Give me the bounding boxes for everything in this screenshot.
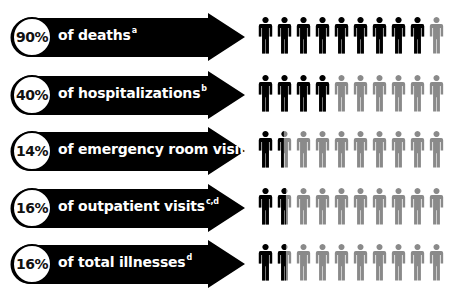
row-total-illnesses: 16% of total illnessesd [0,240,456,288]
person-icon-empty [313,187,332,227]
person-icon-empty [408,130,427,170]
person-icon-empty [389,130,408,170]
percent-badge: 14% [12,131,52,171]
person-icon-partial [275,130,294,170]
person-icon-empty [427,74,446,114]
person-icon-filled [313,74,332,114]
percent-badge: 16% [12,188,52,228]
person-icon-empty [351,243,370,283]
people-icons [256,130,446,170]
person-icon-filled [370,16,389,56]
row-label: of total illnessesd [58,254,192,270]
person-icon-empty [313,130,332,170]
person-icon-empty [408,74,427,114]
person-icon-empty [351,74,370,114]
person-icon-empty [370,130,389,170]
row-hospitalizations: 40% of hospitalizationsb [0,71,456,127]
people-icons [256,243,446,283]
person-icon-empty [370,187,389,227]
person-icon-filled [256,130,275,170]
person-icon-filled [351,16,370,56]
row-label: of deathsa [58,27,137,43]
label-text: of total illnesses [58,254,185,270]
row-label: of emergency room visitsc [58,141,259,157]
person-icon-empty [427,243,446,283]
person-icon-empty [351,187,370,227]
footnote-marker: c,d [206,197,219,206]
person-icon-empty [389,243,408,283]
footnote-marker: d [186,253,192,262]
person-icon-empty [389,74,408,114]
people-icons [256,187,446,227]
person-icon-empty [351,130,370,170]
label-text: of hospitalizations [58,85,200,101]
percent-badge: 90% [12,17,52,57]
people-icons [256,74,446,114]
people-icons [256,16,446,56]
person-icon-filled [275,74,294,114]
person-icon-empty [427,187,446,227]
row-label: of outpatient visitsc,d [58,198,219,214]
person-icon-empty [427,16,446,56]
person-icon-filled [256,243,275,283]
person-icon-empty [370,243,389,283]
percent-badge: 16% [12,244,52,284]
person-icon-empty [332,130,351,170]
row-emergency-room: 14% of emergency room visitsc [0,127,456,183]
label-text: of deaths [58,27,131,43]
person-icon-empty [332,187,351,227]
footnote-marker: b [201,84,207,93]
person-icon-empty [294,243,313,283]
row-deaths: 90% of deathsa [0,13,456,69]
person-icon-empty [294,130,313,170]
row-outpatient: 16% of outpatient visitsc,d [0,184,456,240]
person-icon-filled [294,74,313,114]
person-icon-empty [332,243,351,283]
person-icon-filled [256,187,275,227]
person-icon-filled [256,74,275,114]
person-icon-filled [294,16,313,56]
label-text: of outpatient visits [58,198,205,214]
person-icon-empty [408,187,427,227]
label-text: of emergency room visits [58,141,254,157]
person-icon-partial [275,243,294,283]
person-icon-empty [427,130,446,170]
person-icon-empty [332,74,351,114]
person-icon-filled [389,16,408,56]
person-icon-empty [313,243,332,283]
person-icon-filled [256,16,275,56]
person-icon-empty [389,187,408,227]
row-label: of hospitalizationsb [58,85,207,101]
person-icon-empty [370,74,389,114]
percent-badge: 40% [12,75,52,115]
person-icon-filled [408,16,427,56]
person-icon-partial [275,187,294,227]
person-icon-filled [275,16,294,56]
footnote-marker: a [132,26,137,35]
person-icon-empty [294,187,313,227]
person-icon-filled [332,16,351,56]
person-icon-empty [408,243,427,283]
person-icon-filled [313,16,332,56]
